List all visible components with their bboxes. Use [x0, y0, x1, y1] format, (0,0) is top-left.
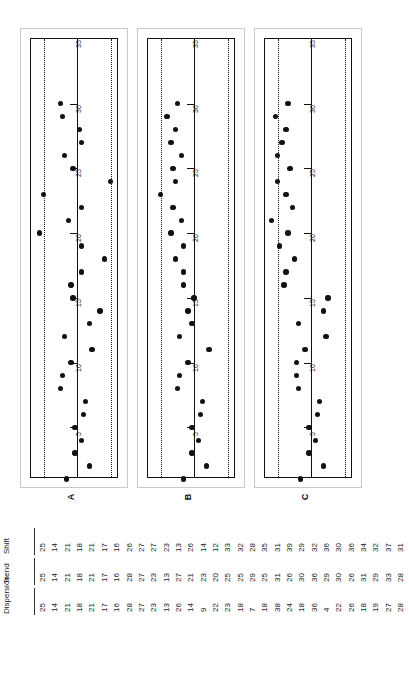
table-cell: 37 [384, 543, 393, 552]
table-cell: 24 [285, 603, 294, 612]
data-point [189, 425, 194, 430]
table-cell: 17 [100, 573, 109, 582]
data-point [292, 256, 297, 261]
data-point [79, 269, 84, 274]
table-cell: 33 [384, 573, 393, 582]
data-point [158, 192, 163, 197]
table-cell: 21 [63, 573, 72, 582]
axis-tick-label: 35 [309, 40, 316, 48]
table-cell: 23 [199, 573, 208, 582]
table-cell: 16 [112, 603, 121, 612]
axis-tick-label: 5 [309, 432, 316, 436]
table-cell: 23 [162, 543, 171, 552]
data-point [283, 127, 288, 132]
data-point [70, 295, 75, 300]
data-point [87, 321, 92, 326]
axis-tick-label: 15 [309, 299, 316, 307]
table-cell: 28 [396, 573, 405, 582]
data-point [281, 282, 286, 287]
data-point [181, 243, 186, 248]
axis-tick-label: 25 [309, 169, 316, 177]
table-cell: 27 [174, 573, 183, 582]
data-point [317, 399, 322, 404]
data-point [185, 360, 190, 365]
data-point [79, 205, 84, 210]
data-point [200, 399, 205, 404]
data-point [58, 101, 63, 106]
plot-area-a: 5101520253035 [30, 38, 118, 478]
lower-control-limit-a [111, 39, 112, 477]
table-cell: 23 [223, 603, 232, 612]
data-point [306, 450, 311, 455]
axis-tick-label: 20 [75, 234, 82, 242]
table-cell: 14 [186, 603, 195, 612]
axis-tick-label: 5 [192, 432, 199, 436]
table-cell: 28 [125, 603, 134, 612]
table-cell: 14 [50, 603, 59, 612]
table-cell: 14 [50, 573, 59, 582]
data-point [279, 140, 284, 145]
table-cell: 19 [371, 603, 380, 612]
table-header-rule [34, 528, 35, 555]
data-point [285, 101, 290, 106]
table-cell: 25 [223, 573, 232, 582]
data-point [179, 153, 184, 158]
table-cell: 26 [347, 603, 356, 612]
data-point [296, 321, 301, 326]
data-point [173, 179, 178, 184]
data-point [181, 476, 186, 481]
table-cell: 32 [371, 543, 380, 552]
data-point [277, 243, 282, 248]
data-point [294, 373, 299, 378]
table-cell: 14 [199, 543, 208, 552]
data-point [206, 347, 211, 352]
data-point [37, 230, 42, 235]
table-cell: 31 [396, 543, 405, 552]
data-point [77, 127, 82, 132]
table-cell: 16 [112, 573, 121, 582]
chart-panel-c: 5101520253035 [254, 28, 362, 488]
data-point [97, 308, 102, 313]
data-point [283, 269, 288, 274]
table-cell: 27 [384, 603, 393, 612]
table-header-rule [34, 558, 35, 585]
data-point [79, 438, 84, 443]
lower-control-limit-c [345, 39, 346, 477]
plot-area-c: 5101520253035 [264, 38, 352, 478]
data-point [285, 230, 290, 235]
axis-tick-label: 25 [75, 169, 82, 177]
table-cell: 27 [137, 573, 146, 582]
table-cells: 2514211821171628272313272123202525292531… [38, 558, 406, 587]
table-cell: 26 [186, 543, 195, 552]
data-point [181, 269, 186, 274]
data-point [72, 450, 77, 455]
data-point [290, 205, 295, 210]
table-cell: 27 [149, 543, 158, 552]
data-point [321, 463, 326, 468]
data-point [87, 463, 92, 468]
table-cell: 13 [162, 573, 171, 582]
axis-tick-label: 10 [192, 364, 199, 372]
data-point [294, 360, 299, 365]
table-cell: 21 [63, 543, 72, 552]
data-point [298, 476, 303, 481]
data-point [325, 295, 330, 300]
data-point [173, 256, 178, 261]
table-cell: 18 [236, 603, 245, 612]
table-cell: 23 [149, 573, 158, 582]
table-cell: 21 [87, 543, 96, 552]
table-cell: 4 [322, 608, 331, 612]
table-cell: 30 [297, 573, 306, 582]
table-cell: 28 [125, 573, 134, 582]
data-point [68, 282, 73, 287]
table-cell: 25 [38, 543, 47, 552]
table-cell: 29 [248, 573, 257, 582]
table-cell: 26 [285, 573, 294, 582]
data-point [72, 425, 77, 430]
table-cell: 36 [310, 573, 319, 582]
table-cell: 21 [87, 573, 96, 582]
data-point [70, 166, 75, 171]
data-point [177, 373, 182, 378]
table-cell: 36 [347, 543, 356, 552]
table-cell: 18 [359, 603, 368, 612]
